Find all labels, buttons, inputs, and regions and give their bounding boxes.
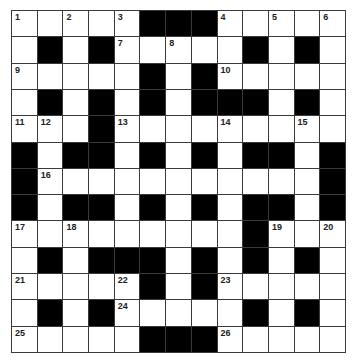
crossword-cell[interactable] xyxy=(269,248,294,273)
crossword-cell[interactable] xyxy=(218,169,243,194)
crossword-cell[interactable]: 4 xyxy=(218,11,243,36)
crossword-cell[interactable] xyxy=(320,64,345,89)
crossword-cell[interactable]: 15 xyxy=(295,116,320,141)
crossword-cell[interactable] xyxy=(115,143,140,168)
crossword-cell[interactable]: 2 xyxy=(63,11,88,36)
crossword-cell[interactable] xyxy=(166,221,191,246)
crossword-cell[interactable] xyxy=(269,327,294,352)
crossword-cell[interactable] xyxy=(295,221,320,246)
crossword-cell[interactable] xyxy=(63,90,88,115)
crossword-cell[interactable] xyxy=(12,37,37,62)
crossword-cell[interactable] xyxy=(89,11,114,36)
crossword-cell[interactable] xyxy=(38,221,63,246)
crossword-cell[interactable]: 10 xyxy=(218,64,243,89)
crossword-cell[interactable] xyxy=(218,248,243,273)
crossword-cell[interactable] xyxy=(115,195,140,220)
crossword-cell[interactable] xyxy=(166,195,191,220)
crossword-cell[interactable]: 6 xyxy=(320,11,345,36)
crossword-cell[interactable] xyxy=(295,11,320,36)
crossword-cell[interactable]: 13 xyxy=(115,116,140,141)
crossword-cell[interactable] xyxy=(192,116,217,141)
crossword-cell[interactable] xyxy=(192,221,217,246)
crossword-cell[interactable] xyxy=(166,90,191,115)
crossword-cell[interactable] xyxy=(12,300,37,325)
crossword-cell[interactable] xyxy=(63,169,88,194)
crossword-cell[interactable] xyxy=(115,327,140,352)
crossword-cell[interactable] xyxy=(243,169,268,194)
crossword-cell[interactable] xyxy=(320,37,345,62)
crossword-cell[interactable]: 25 xyxy=(12,327,37,352)
crossword-cell[interactable] xyxy=(63,327,88,352)
crossword-cell[interactable] xyxy=(140,116,165,141)
crossword-cell[interactable]: 21 xyxy=(12,274,37,299)
crossword-cell[interactable] xyxy=(140,221,165,246)
crossword-cell[interactable]: 7 xyxy=(115,37,140,62)
crossword-cell[interactable] xyxy=(166,116,191,141)
crossword-cell[interactable] xyxy=(320,116,345,141)
crossword-cell[interactable] xyxy=(320,90,345,115)
crossword-cell[interactable]: 18 xyxy=(63,221,88,246)
crossword-cell[interactable] xyxy=(320,274,345,299)
crossword-cell[interactable] xyxy=(12,90,37,115)
crossword-cell[interactable] xyxy=(166,300,191,325)
crossword-cell[interactable] xyxy=(243,64,268,89)
crossword-cell[interactable] xyxy=(218,195,243,220)
crossword-cell[interactable] xyxy=(218,37,243,62)
crossword-cell[interactable] xyxy=(63,116,88,141)
crossword-cell[interactable] xyxy=(89,221,114,246)
crossword-cell[interactable]: 9 xyxy=(12,64,37,89)
crossword-cell[interactable] xyxy=(269,169,294,194)
crossword-cell[interactable] xyxy=(320,248,345,273)
crossword-cell[interactable] xyxy=(38,143,63,168)
crossword-cell[interactable]: 16 xyxy=(38,169,63,194)
crossword-cell[interactable] xyxy=(115,64,140,89)
crossword-cell[interactable] xyxy=(218,300,243,325)
crossword-cell[interactable] xyxy=(38,195,63,220)
crossword-cell[interactable] xyxy=(192,169,217,194)
crossword-cell[interactable] xyxy=(269,274,294,299)
crossword-cell[interactable] xyxy=(295,169,320,194)
crossword-cell[interactable] xyxy=(218,143,243,168)
crossword-cell[interactable] xyxy=(295,327,320,352)
crossword-cell[interactable] xyxy=(269,300,294,325)
crossword-cell[interactable] xyxy=(243,274,268,299)
crossword-cell[interactable] xyxy=(243,327,268,352)
crossword-cell[interactable] xyxy=(295,274,320,299)
crossword-cell[interactable] xyxy=(63,37,88,62)
crossword-cell[interactable] xyxy=(166,64,191,89)
crossword-cell[interactable]: 14 xyxy=(218,116,243,141)
crossword-cell[interactable]: 5 xyxy=(269,11,294,36)
crossword-cell[interactable]: 1 xyxy=(12,11,37,36)
crossword-cell[interactable] xyxy=(63,300,88,325)
crossword-cell[interactable] xyxy=(63,274,88,299)
crossword-cell[interactable] xyxy=(269,64,294,89)
crossword-cell[interactable] xyxy=(295,143,320,168)
crossword-cell[interactable] xyxy=(166,248,191,273)
crossword-cell[interactable] xyxy=(115,90,140,115)
crossword-cell[interactable] xyxy=(243,116,268,141)
crossword-cell[interactable] xyxy=(166,143,191,168)
crossword-cell[interactable] xyxy=(89,169,114,194)
crossword-cell[interactable] xyxy=(89,327,114,352)
crossword-cell[interactable] xyxy=(320,327,345,352)
crossword-cell[interactable] xyxy=(320,300,345,325)
crossword-cell[interactable] xyxy=(63,248,88,273)
crossword-cell[interactable] xyxy=(63,64,88,89)
crossword-cell[interactable]: 23 xyxy=(218,274,243,299)
crossword-cell[interactable] xyxy=(295,64,320,89)
crossword-cell[interactable]: 3 xyxy=(115,11,140,36)
crossword-cell[interactable] xyxy=(269,37,294,62)
crossword-cell[interactable] xyxy=(115,169,140,194)
crossword-cell[interactable] xyxy=(166,274,191,299)
crossword-cell[interactable]: 8 xyxy=(166,37,191,62)
crossword-cell[interactable]: 20 xyxy=(320,221,345,246)
crossword-cell[interactable] xyxy=(38,64,63,89)
crossword-cell[interactable] xyxy=(269,90,294,115)
crossword-cell[interactable] xyxy=(12,248,37,273)
crossword-cell[interactable] xyxy=(38,11,63,36)
crossword-cell[interactable]: 22 xyxy=(115,274,140,299)
crossword-cell[interactable] xyxy=(192,37,217,62)
crossword-cell[interactable] xyxy=(115,221,140,246)
crossword-cell[interactable] xyxy=(269,116,294,141)
crossword-cell[interactable]: 19 xyxy=(269,221,294,246)
